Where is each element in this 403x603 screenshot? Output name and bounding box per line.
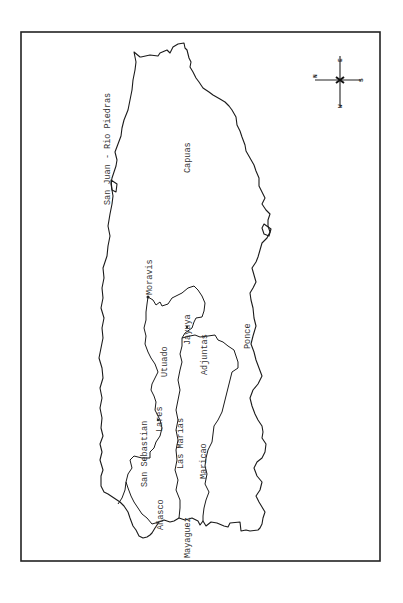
compass-east: E xyxy=(337,58,344,62)
border-moravis-utuado xyxy=(148,286,205,338)
label-jayuya: Jayuya xyxy=(183,314,193,345)
label-utuado: Utuado xyxy=(160,346,170,377)
compass-west: W xyxy=(337,104,344,108)
label-moravis: Moravis xyxy=(145,259,155,295)
label-anasco: Añasco xyxy=(156,499,166,530)
label-lares: Lares xyxy=(155,406,165,432)
compass-north: N xyxy=(312,74,319,78)
label-maricao: Maricao xyxy=(199,443,209,479)
label-adjuntas: Adjuntas xyxy=(200,334,210,375)
map-canvas: San Juan - Rio Piedras Capuas Moravis Ut… xyxy=(0,0,403,603)
border-jayuya-adjuntas xyxy=(182,335,238,521)
label-las-marias: Las Marias xyxy=(176,418,186,469)
label-san-sebastian: San Sebastian xyxy=(140,421,150,487)
border-anasco xyxy=(126,482,159,524)
compass-rose: N E S W xyxy=(312,56,365,108)
label-ponce: Ponce xyxy=(243,323,253,349)
label-mayaguez: Mayaguez xyxy=(183,517,193,558)
label-san-juan: San Juan - Rio Piedras xyxy=(103,93,113,205)
label-caguas: Capuas xyxy=(183,142,193,173)
compass-south: S xyxy=(358,78,365,82)
map-frame xyxy=(21,32,380,561)
